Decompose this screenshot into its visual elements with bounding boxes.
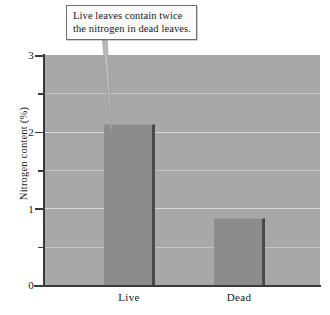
bar-dead[interactable] — [214, 218, 265, 285]
gridline-2-5 — [44, 93, 320, 94]
ytick-mark-2-5 — [38, 93, 44, 95]
gridline-0-5 — [44, 247, 320, 248]
callout-annotation: Live leaves contain twice the nitrogen i… — [66, 5, 197, 40]
xtick-label-dead: Dead — [199, 291, 279, 303]
callout-line-2: the nitrogen in dead leaves. — [73, 22, 191, 35]
ytick-mark-1-5 — [38, 170, 44, 172]
callout-leader-line — [96, 36, 136, 130]
ytick-label-3: 3 — [8, 50, 34, 61]
xtick-label-live: Live — [89, 291, 169, 303]
ytick-mark-1 — [35, 208, 44, 210]
ytick-mark-3 — [35, 55, 44, 57]
bar-live[interactable] — [104, 124, 155, 285]
plot-area — [44, 55, 320, 285]
callout-line-1: Live leaves contain twice — [73, 9, 191, 22]
ytick-mark-0-5 — [38, 247, 44, 249]
gridline-2 — [44, 132, 320, 133]
ytick-label-0: 0 — [8, 280, 34, 291]
ytick-mark-0 — [35, 285, 44, 287]
ytick-mark-2 — [35, 132, 44, 134]
gridline-1-5 — [44, 170, 320, 171]
gridline-1 — [44, 208, 320, 209]
x-axis-line — [34, 285, 321, 287]
bar-chart-figure: 0 1 2 3 Nitrogen content (%) Live Dead L… — [0, 0, 330, 315]
y-axis-title: Nitrogen content (%) — [18, 79, 29, 229]
